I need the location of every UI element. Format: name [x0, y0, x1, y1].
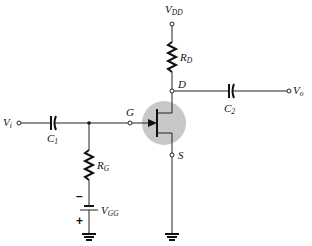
rg-resistor	[85, 150, 93, 180]
source-terminal	[170, 153, 174, 157]
vi-label: Vi	[3, 116, 12, 130]
drain-label: D	[177, 78, 186, 90]
vi-terminal	[17, 121, 21, 125]
vgg-minus-sign: –	[76, 189, 83, 203]
source-ground-icon	[165, 234, 179, 240]
rd-resistor	[168, 42, 176, 72]
vgg-label: VGG	[101, 204, 119, 218]
vgg-plus-sign: +	[76, 214, 83, 228]
gate-terminal	[128, 121, 132, 125]
vo-label: Vo	[293, 84, 304, 98]
rd-label: RD	[179, 51, 193, 65]
vdd-terminal	[170, 22, 174, 26]
vo-terminal	[287, 89, 291, 93]
drain-terminal	[170, 89, 174, 93]
vdd-label: VDD	[165, 3, 183, 17]
source-label: S	[178, 149, 184, 161]
circuit-diagram: VDD RD D Vo C2 S G Vi C1	[0, 0, 312, 246]
c1-label: C1	[47, 132, 58, 146]
gate-label: G	[126, 106, 134, 118]
rg-label: RG	[96, 159, 110, 173]
battery-ground-icon	[82, 234, 96, 240]
c2-label: C2	[224, 102, 235, 116]
